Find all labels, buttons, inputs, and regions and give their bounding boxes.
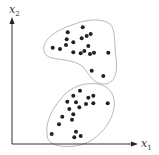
scatter-diagram [0,0,159,155]
lower-cluster-point [77,105,81,109]
lower-cluster-point [67,107,71,111]
upper-cluster-point [106,51,110,55]
upper-cluster-point [82,49,86,53]
lower-cluster-point [84,102,88,106]
lower-cluster-point [72,135,76,139]
lower-cluster-point [65,100,69,104]
upper-cluster-point [85,34,89,38]
upper-cluster-point [64,43,68,47]
data-points [50,25,111,139]
lower-cluster-point [57,122,61,126]
upper-cluster-point [86,44,90,48]
upper-cluster-point [58,47,62,51]
upper-cluster-point [71,40,75,44]
lower-cluster-point [74,130,78,134]
x-axis-label-subscript: 1 [147,144,151,152]
lower-cluster-point [71,112,75,116]
lower-cluster-point [60,115,64,119]
lower-cluster-point [106,101,110,105]
upper-cluster-point [66,30,70,34]
lower-cluster-point [71,94,75,98]
lower-cluster-point [91,101,95,105]
upper-cluster-point [51,46,55,50]
upper-cluster-point [65,37,69,41]
x-axis-label: x1 [141,138,152,152]
upper-cluster-point [90,69,94,73]
lower-cluster-point [78,89,82,93]
lower-cluster-point [79,134,83,138]
x-axis-arrow-icon [131,142,138,147]
y-axis-label-subscript: 2 [15,10,19,18]
upper-cluster-point [88,52,92,56]
lower-cluster-point [86,96,90,100]
upper-cluster-point [92,51,96,55]
upper-cluster-point [79,51,83,55]
lower-cluster-point [74,100,78,104]
lower-cluster-point [70,118,74,122]
upper-cluster-point [80,36,84,40]
upper-cluster-point [81,25,85,29]
lower-cluster-point [91,94,95,98]
upper-cluster-point [89,32,93,36]
upper-cluster-point [71,50,75,54]
upper-cluster-point [101,74,105,78]
lower-cluster-point [50,132,54,136]
y-axis-label: x2 [9,4,20,18]
